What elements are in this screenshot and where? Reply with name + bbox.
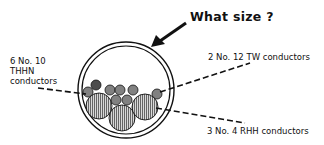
thhn-conductor bbox=[111, 95, 121, 105]
thhn-conductor bbox=[115, 85, 125, 95]
rhh-conductor bbox=[132, 94, 158, 120]
thhn-conductor bbox=[105, 85, 115, 95]
thhn-label-line1: 6 No. 10 bbox=[10, 56, 57, 66]
thhn-label: 6 No. 10 THHN conductors bbox=[10, 56, 57, 86]
thhn-conductor bbox=[128, 85, 138, 95]
rhh-conductor bbox=[109, 105, 135, 131]
arrow-icon bbox=[151, 23, 186, 47]
thhn-conductor bbox=[122, 95, 132, 105]
rhh-conductor bbox=[86, 93, 112, 119]
thhn-conductor bbox=[91, 80, 101, 90]
conduit-fill-diagram: What size ? 6 No. 10 THHN conductors 2 N… bbox=[0, 0, 324, 145]
thhn-label-line2: THHN bbox=[10, 66, 57, 76]
tw-label: 2 No. 12 TW conductors bbox=[208, 52, 310, 62]
thhn-label-line3: conductors bbox=[10, 76, 57, 86]
rhh-leader-line bbox=[156, 108, 245, 123]
rhh-label: 3 No. 4 RHH conductors bbox=[207, 126, 309, 136]
diagram-title: What size ? bbox=[190, 9, 274, 24]
tw-leader-line bbox=[160, 63, 250, 92]
